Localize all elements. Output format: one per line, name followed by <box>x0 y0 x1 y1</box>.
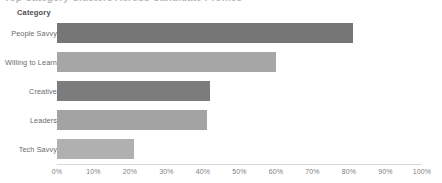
bar <box>57 139 134 159</box>
x-axis-tick-label: 20% <box>123 168 137 175</box>
bar-row: Willing to Learn <box>0 47 442 76</box>
bar-category-label: Leaders <box>30 115 57 124</box>
x-axis-tick-label: 60% <box>269 168 283 175</box>
bar <box>57 23 353 43</box>
bar-row: Tech Savvy <box>0 134 442 163</box>
x-axis-line <box>57 164 422 165</box>
bar-row: Creative <box>0 76 442 105</box>
x-axis-tick-label: 90% <box>378 168 392 175</box>
x-axis-tick-label: 30% <box>159 168 173 175</box>
chart-title-text: Top Category Clusters Across Candidate P… <box>4 0 242 3</box>
bar-row: People Savvy <box>0 18 442 47</box>
x-axis-tick-label: 40% <box>196 168 210 175</box>
bar <box>57 52 276 72</box>
x-axis-tick-label: 100% <box>413 168 431 175</box>
plot-area: People SavvyWilling to LearnCreativeLead… <box>0 18 442 164</box>
x-axis-tick-label: 0% <box>52 168 62 175</box>
bar-row: Leaders <box>0 105 442 134</box>
x-axis-tick-label: 80% <box>342 168 356 175</box>
x-axis-tick-label: 50% <box>232 168 246 175</box>
category-axis-heading: Category <box>17 8 51 17</box>
bar-category-label: Willing to Learn <box>5 57 57 66</box>
bar <box>57 81 210 101</box>
x-axis: 0%10%20%30%40%50%60%70%80%90%100% <box>0 164 442 183</box>
bar-category-label: People Savvy <box>11 28 57 37</box>
bar-category-label: Tech Savvy <box>19 144 57 153</box>
bar <box>57 110 207 130</box>
chart-title-clipped: Top Category Clusters Across Candidate P… <box>0 0 442 5</box>
x-axis-tick-label: 70% <box>305 168 319 175</box>
bar-category-label: Creative <box>29 86 57 95</box>
x-axis-tick-label: 10% <box>86 168 100 175</box>
bar-chart: Top Category Clusters Across Candidate P… <box>0 0 442 183</box>
